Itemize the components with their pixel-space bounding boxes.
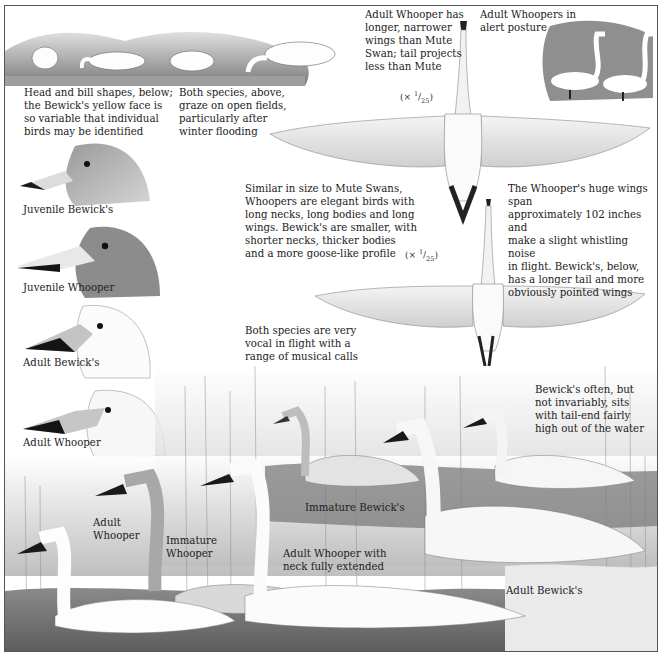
label-whooper-neck-extended: Adult Whooper with neck fully extended bbox=[283, 547, 387, 573]
scale-label-bottom: (× 1/25) bbox=[405, 248, 438, 263]
caption-head-bill-shapes: Head and bill shapes, below; the Bewick'… bbox=[24, 86, 173, 138]
label-adult-whooper-head: Adult Whooper bbox=[23, 436, 101, 449]
label-immature-bewicks: Immature Bewick's bbox=[305, 501, 405, 514]
grazing-scene bbox=[5, 32, 335, 86]
caption-vocal-calls: Both species are very vocal in flight wi… bbox=[245, 324, 358, 363]
caption-size-comparison: Similar in size to Mute Swans, Whoopers … bbox=[245, 182, 417, 260]
label-juvenile-bewicks: Juvenile Bewick's bbox=[23, 203, 113, 216]
caption-whooper-wings: Adult Whooper has longer, narrower wings… bbox=[365, 8, 464, 73]
label-adult-whooper-swimming: Adult Whooper bbox=[93, 516, 140, 542]
caption-wingspan: The Whooper's huge wings span approximat… bbox=[508, 182, 657, 299]
caption-grazing: Both species, above, graze on open field… bbox=[179, 86, 287, 138]
scale-label-top: (× 1/25) bbox=[400, 90, 433, 105]
scale-suffix: ) bbox=[429, 92, 433, 102]
label-adult-bewicks-swimming: Adult Bewick's bbox=[506, 584, 582, 597]
scale-numerator: 1 bbox=[419, 248, 423, 256]
head-studies bbox=[17, 143, 165, 458]
scale-suffix: ) bbox=[434, 250, 438, 260]
scale-prefix: (× bbox=[405, 250, 419, 260]
caption-tail-position: Bewick's often, but not invariably, sits… bbox=[535, 383, 644, 435]
caption-alert-posture: Adult Whoopers in alert posture bbox=[480, 8, 576, 34]
label-juvenile-whooper: Juvenile Whooper bbox=[23, 281, 115, 294]
scale-numerator: 1 bbox=[414, 90, 418, 98]
illustration-plate: Head and bill shapes, below; the Bewick'… bbox=[4, 5, 658, 652]
label-immature-whooper: Immature Whooper bbox=[166, 534, 217, 560]
scale-prefix: (× bbox=[400, 92, 414, 102]
label-adult-bewicks-head: Adult Bewick's bbox=[23, 356, 99, 369]
